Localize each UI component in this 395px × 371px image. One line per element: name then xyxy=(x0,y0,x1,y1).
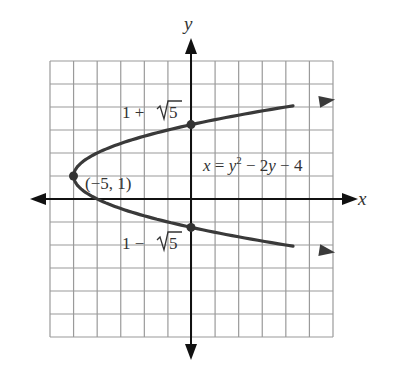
equation-label: x = y2 − 2y − 4 xyxy=(202,154,303,175)
y-axis-label: y xyxy=(182,13,193,34)
x-axis-left-arrow-icon xyxy=(30,193,46,205)
upper-intercept-prefix: 1 + xyxy=(122,103,144,122)
vertex-label: (−5, 1) xyxy=(85,174,131,193)
lower-intercept-point xyxy=(187,223,196,232)
parabola-graph: x y (−5, 1) 1 + 5 1 − 5 x = y2 − 2y − 4 xyxy=(0,0,395,371)
x-axis-right-arrow-icon xyxy=(342,193,358,205)
svg-text:1 +: 1 + xyxy=(122,103,144,122)
y-axis-down-arrow-icon xyxy=(185,344,197,360)
x-axis-label: x xyxy=(357,188,367,209)
lower-intercept-label: 1 − 5 xyxy=(122,232,182,253)
upper-intercept-point xyxy=(187,120,196,129)
upper-intercept-label: 1 + 5 xyxy=(122,101,182,122)
svg-text:1 −: 1 − xyxy=(122,234,144,253)
upper-intercept-root: 5 xyxy=(169,103,178,122)
lower-intercept-root: 5 xyxy=(169,234,178,253)
vertex-point xyxy=(69,172,78,181)
x-axis xyxy=(30,193,358,205)
y-axis-up-arrow-icon xyxy=(185,38,197,54)
lower-intercept-prefix: 1 − xyxy=(122,234,144,253)
